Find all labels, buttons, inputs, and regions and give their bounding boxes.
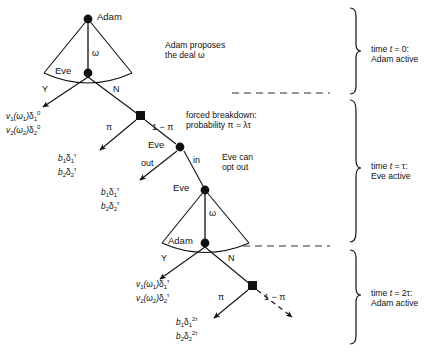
annotation-line: opt out [222, 162, 253, 172]
time-bracket-line: time t = τ: [371, 161, 411, 171]
game-tree-diagram: Adam Eve Eve Eve Adam ω Y N π 1 − π out … [0, 0, 437, 352]
annotation-adam-proposes: Adam proposes the deal ω [165, 40, 225, 60]
branch-label-yes-bottom: Y [161, 253, 167, 264]
payoff-line: b2δ22τ [176, 330, 198, 344]
brace-tau [350, 100, 361, 242]
branch-label-in: in [193, 155, 200, 166]
branch-label-omega-bottom: ω [209, 208, 216, 219]
node-label-eve-tau: Eve [173, 182, 189, 193]
branch-label-no-top: N [113, 84, 120, 95]
time-bracket-line: Adam active [371, 298, 418, 308]
branch-label-pi-top: π [106, 122, 112, 133]
node-label-adam-t0: Adam [97, 11, 122, 22]
time-bracket-t0: time t = 0: Adam active [371, 44, 418, 64]
time-bracket-tau: time t = τ: Eve active [371, 161, 411, 181]
brace-t0 [350, 8, 361, 94]
node-adam-2tau[interactable] [201, 239, 210, 248]
payoff-line: b2δ2τ [58, 166, 76, 180]
time-bracket-line: Adam active [371, 54, 418, 64]
annotation-line: Eve can [222, 152, 253, 162]
payoff-line: v2(ω2)δ2τ [136, 292, 169, 306]
node-label-adam-2tau: Adam [168, 235, 193, 246]
payoff-breakdown-2tau: b1δ12τ b2δ22τ [176, 316, 198, 343]
annotation-forced-breakdown: forced breakdown: probability π = λτ [186, 110, 257, 130]
chance-node-t0[interactable] [136, 111, 145, 120]
node-label-eve-t0: Eve [55, 65, 71, 76]
branch-label-one-minus-pi-top: 1 − π [152, 122, 173, 133]
payoff-opt-out-tau: b1δ1τ b2δ2τ [101, 186, 119, 213]
payoff-line: v1(ω1)δ1τ [136, 278, 169, 292]
annotation-line: the deal ω [165, 50, 225, 60]
branch-label-yes-top: Y [42, 84, 48, 95]
payoff-line: v2(ω2)δ20 [6, 124, 40, 138]
chance-node-2tau[interactable] [248, 281, 257, 290]
brace-2tau [350, 250, 361, 344]
payoff-accept-2tau: v1(ω1)δ1τ v2(ω2)δ2τ [136, 278, 169, 305]
payoff-line: b1δ1τ [101, 186, 119, 200]
annotation-line: Adam proposes [165, 40, 225, 50]
time-bracket-line: time t = 0: [371, 44, 418, 54]
time-bracket-line: Eve active [371, 171, 411, 181]
node-adam-t0[interactable] [84, 15, 93, 24]
payoff-line: b1δ1τ [58, 152, 76, 166]
node-eve-t0[interactable] [84, 69, 93, 78]
annotation-line: forced breakdown: [186, 110, 257, 120]
node-eve-opt[interactable] [176, 143, 185, 152]
branch-label-one-minus-pi-bottom: 1 − π [264, 292, 285, 303]
time-bracket-line: time t = 2τ: [371, 288, 418, 298]
branch-label-pi-bottom: π [218, 292, 224, 303]
branch-label-omega-top: ω [92, 48, 99, 59]
time-bracket-2tau: time t = 2τ: Adam active [371, 288, 418, 308]
annotation-eve-opt-out: Eve can opt out [222, 152, 253, 172]
branch-label-no-bottom: N [228, 253, 235, 264]
branch-label-out: out [141, 158, 154, 169]
payoff-breakdown-t0: b1δ1τ b2δ2τ [58, 152, 76, 179]
payoff-line: b2δ2τ [101, 200, 119, 214]
node-label-eve-opt: Eve [148, 139, 164, 150]
annotation-line: probability π = λτ [186, 120, 257, 130]
payoff-line: b1δ12τ [176, 316, 198, 330]
payoff-line: v1(ω1)δ10 [6, 110, 40, 124]
payoff-accept-t0: v1(ω1)δ10 v2(ω2)δ20 [6, 110, 40, 137]
